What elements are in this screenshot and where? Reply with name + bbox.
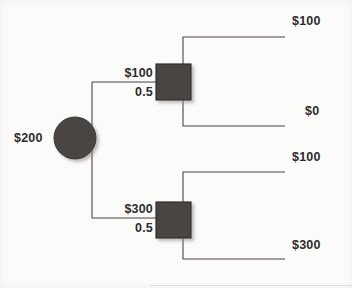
payoff-label-lower-top: $100: [292, 150, 321, 164]
lower-branch-value-label: $300: [98, 202, 153, 216]
upper-branch-probability-label: 0.5: [98, 85, 153, 99]
upper-decision-node[interactable]: [156, 64, 191, 100]
edge-upper-node-to-outcome-0: [183, 82, 285, 126]
upper-branch-value-label: $100: [98, 66, 153, 80]
page-scan-edge: [150, 285, 352, 286]
root-chance-node[interactable]: [54, 117, 96, 159]
lower-decision-node[interactable]: [156, 202, 191, 238]
payoff-label-lower-bottom: $300: [292, 238, 321, 252]
edge-lower-node-to-outcome-300: [183, 218, 285, 259]
edge-lower-node-to-outcome-100: [183, 172, 285, 218]
decision-tree-diagram: $200 $100 0.5 $300 0.5 $100 $0 $100 $300: [0, 0, 352, 288]
lower-branch-probability-label: 0.5: [98, 221, 153, 235]
payoff-label-upper-bottom: $0: [305, 104, 319, 118]
edge-upper-node-to-outcome-100: [183, 37, 285, 82]
payoff-label-upper-top: $100: [292, 14, 321, 28]
root-node-value-label: $200: [14, 131, 43, 145]
